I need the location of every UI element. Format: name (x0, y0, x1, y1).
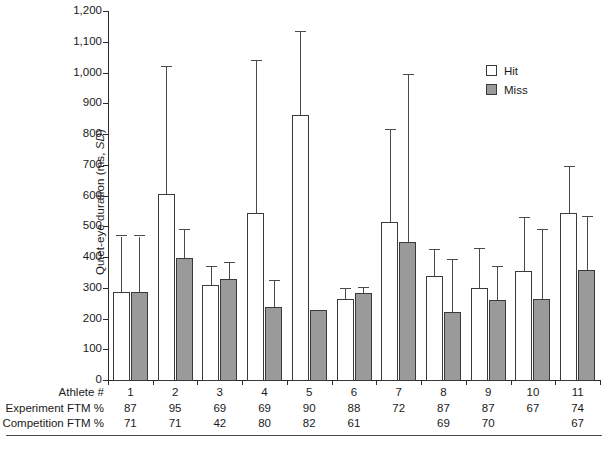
table-cell: 80 (250, 417, 280, 429)
error-bar-line (363, 288, 364, 293)
x-axis-tick (153, 380, 154, 385)
table-cell: 4 (250, 386, 280, 398)
y-tick-label: 800 (58, 128, 102, 140)
x-axis-tick (600, 380, 601, 385)
x-axis-tick (108, 380, 109, 385)
table-cell: 11 (563, 386, 593, 398)
table-cell: 87 (473, 402, 503, 414)
x-axis-tick (511, 380, 512, 385)
y-tick-label: 1,100 (58, 36, 102, 48)
table-row: Competition FTM %717142808261697067 (0, 417, 608, 433)
y-axis-tick (103, 226, 108, 227)
bar-miss-athlete-8 (444, 312, 461, 381)
error-bar-cap (269, 280, 280, 281)
y-axis-tick (103, 11, 108, 12)
error-bar-cap (582, 216, 593, 217)
error-bar-cap (429, 249, 440, 250)
x-axis-tick (197, 380, 198, 385)
table-cell: 1 (115, 386, 145, 398)
y-axis-tick (103, 42, 108, 43)
y-tick-label: 900 (58, 97, 102, 109)
y-axis-tick (103, 134, 108, 135)
bar-hit-athlete-8 (426, 276, 443, 381)
y-tick-label: 100 (58, 343, 102, 355)
y-axis-tick (103, 165, 108, 166)
error-bar-cap (116, 235, 127, 236)
table-cell: 69 (250, 402, 280, 414)
error-bar-cap (537, 229, 548, 230)
table-row: Experiment FTM %8795696990887287876774 (0, 402, 608, 418)
legend-item-miss: Miss (486, 81, 528, 98)
bar-miss-athlete-4 (265, 307, 282, 381)
error-bar-cap (403, 74, 414, 75)
error-bar-cap (295, 31, 306, 32)
error-bar-line (497, 267, 498, 299)
error-bar-line (184, 230, 185, 258)
bar-hit-athlete-10 (515, 271, 532, 381)
table-cell: 69 (428, 417, 458, 429)
bar-hit-athlete-11 (560, 213, 577, 381)
table-cell: 87 (428, 402, 458, 414)
y-axis-tick (103, 196, 108, 197)
x-axis-tick (555, 380, 556, 385)
table-cell: 5 (294, 386, 324, 398)
x-axis-tick (332, 380, 333, 385)
y-tick-label: 600 (58, 190, 102, 202)
y-tick-label: 200 (58, 313, 102, 325)
table-cell: 2 (160, 386, 190, 398)
quiet-eye-duration-chart: Quiet-eye duration (ms, SD) 010020030040… (0, 0, 608, 450)
error-bar-line (408, 75, 409, 242)
bar-miss-athlete-2 (176, 258, 193, 381)
error-bar-cap (161, 66, 172, 67)
error-bar-cap (385, 129, 396, 130)
error-bar-line (452, 260, 453, 312)
error-bar-line (390, 130, 391, 221)
y-axis-line (108, 11, 109, 381)
table-cell: 70 (473, 417, 503, 429)
y-tick-label: 1,000 (58, 67, 102, 79)
error-bar-line (434, 250, 435, 276)
y-axis-tick (103, 288, 108, 289)
y-tick-label: 700 (58, 159, 102, 171)
y-axis-tick (103, 257, 108, 258)
error-bar-line (587, 217, 588, 270)
table-row-label: Athlete # (0, 386, 104, 398)
bar-miss-athlete-10 (533, 299, 550, 381)
error-bar-cap (251, 60, 262, 61)
x-axis-tick (376, 380, 377, 385)
bar-miss-athlete-6 (355, 293, 372, 381)
error-bar-cap (519, 217, 530, 218)
table-cell: 67 (563, 417, 593, 429)
table-cell: 95 (160, 402, 190, 414)
error-bar-line (256, 61, 257, 212)
legend-item-hit: Hit (486, 62, 528, 79)
table-cell: 7 (384, 386, 414, 398)
y-tick-label: 300 (58, 282, 102, 294)
bar-miss-athlete-7 (399, 242, 416, 381)
table-cell: 8 (428, 386, 458, 398)
y-axis-tick (103, 73, 108, 74)
y-axis-tick (103, 103, 108, 104)
bar-hit-athlete-5 (292, 115, 309, 381)
table-cell: 69 (205, 402, 235, 414)
error-bar-line (345, 289, 346, 299)
error-bar-line (274, 281, 275, 307)
table-cell: 72 (384, 402, 414, 414)
bar-miss-athlete-5 (310, 310, 327, 381)
error-bar-line (139, 237, 140, 293)
bar-hit-athlete-3 (202, 285, 219, 381)
y-axis-tick (103, 319, 108, 320)
error-bar-line (524, 218, 525, 271)
error-bar-line (542, 230, 543, 299)
y-tick-label: 500 (58, 220, 102, 232)
error-bar-cap (224, 262, 235, 263)
bar-hit-athlete-1 (113, 292, 130, 381)
bar-hit-athlete-7 (381, 222, 398, 381)
bar-hit-athlete-2 (158, 194, 175, 381)
error-bar-line (479, 249, 480, 288)
table-cell: 10 (518, 386, 548, 398)
table-bottom-rule (6, 435, 602, 436)
table-cell: 87 (115, 402, 145, 414)
table-row-label: Experiment FTM % (0, 402, 104, 414)
legend-label: Miss (504, 84, 528, 96)
